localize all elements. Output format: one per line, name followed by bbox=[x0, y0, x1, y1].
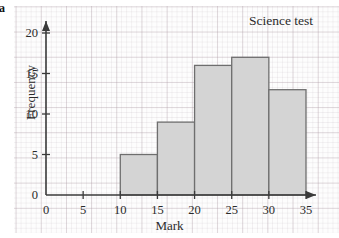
x-axis-tick-label: 15 bbox=[146, 204, 168, 217]
histogram-bar bbox=[157, 122, 194, 195]
y-axis-tick-label: 0 bbox=[14, 189, 38, 202]
x-axis-tick-label: 5 bbox=[72, 204, 94, 217]
histogram-bar bbox=[195, 65, 232, 195]
y-axis-tick-label: 20 bbox=[14, 27, 38, 40]
chart-title: Science test bbox=[249, 14, 313, 28]
y-axis-tick-label: 10 bbox=[14, 108, 38, 121]
x-axis-tick-label: 20 bbox=[184, 204, 206, 217]
x-axis-arrowhead bbox=[306, 191, 316, 199]
histogram-bar bbox=[232, 57, 269, 195]
x-axis-tick-label: 10 bbox=[109, 204, 131, 217]
y-axis-tick-label: 5 bbox=[14, 149, 38, 162]
x-axis-tick-label: 0 bbox=[35, 204, 57, 217]
bars-group bbox=[120, 57, 306, 195]
y-axis-arrowhead bbox=[42, 21, 50, 31]
y-axis-tick-label: 15 bbox=[14, 68, 38, 81]
x-axis-tick-label: 35 bbox=[295, 204, 317, 217]
x-axis-label: Mark bbox=[0, 219, 339, 232]
panel-label: a bbox=[0, 2, 5, 14]
x-axis-tick-label: 30 bbox=[258, 204, 280, 217]
histogram-bar bbox=[269, 90, 306, 195]
x-axis-tick-label: 25 bbox=[221, 204, 243, 217]
figure-container: a Science test Frequency Mark 05101520 0… bbox=[0, 0, 339, 238]
histogram-bar bbox=[120, 155, 157, 196]
chart-plot bbox=[0, 0, 339, 238]
